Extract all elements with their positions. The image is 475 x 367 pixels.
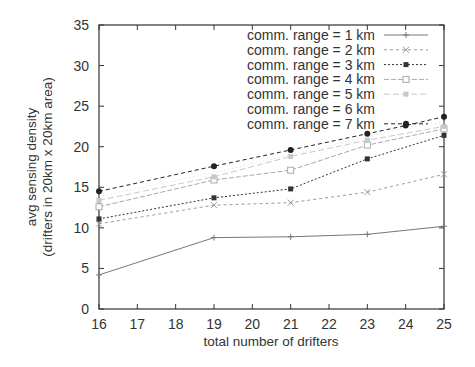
series-2km (96, 171, 447, 226)
x-tick-label: 18 (168, 316, 184, 332)
data-point-marker (97, 216, 102, 221)
data-point-marker (441, 114, 447, 120)
data-point-marker (211, 235, 217, 241)
x-tick-label: 16 (91, 316, 107, 332)
series-6km (99, 122, 444, 196)
y-tick-label: 10 (73, 220, 89, 236)
x-tick-label: 17 (130, 316, 146, 332)
legend: comm. range = 1 kmcomm. range = 2 kmcomm… (247, 27, 428, 132)
legend-entry: comm. range = 4 km (247, 71, 428, 87)
data-point-marker (212, 195, 217, 200)
data-point-marker (211, 163, 217, 169)
legend-label: comm. range = 1 km (247, 27, 375, 43)
series-3km (97, 133, 447, 222)
legend-label: comm. range = 2 km (247, 42, 375, 58)
data-point-marker (404, 92, 409, 97)
data-point-marker (288, 234, 294, 240)
x-tick-label: 23 (360, 316, 376, 332)
data-point-marker (288, 147, 294, 153)
y-tick-label: 5 (81, 260, 89, 276)
series-line (99, 226, 444, 275)
data-point-marker (364, 142, 370, 148)
legend-entry: comm. range = 6 km (247, 101, 375, 117)
x-tick-label: 25 (436, 316, 452, 332)
data-point-marker (365, 138, 370, 143)
data-point-marker (96, 188, 102, 194)
series-line (99, 135, 444, 219)
data-point-marker (288, 186, 293, 191)
data-point-marker (96, 272, 102, 278)
x-tick-label: 22 (321, 316, 337, 332)
series-line (99, 129, 444, 207)
legend-entry: comm. range = 5 km (247, 86, 428, 102)
series-line (99, 122, 444, 196)
line-chart: 05101520253035 16171819202122232425 comm… (0, 0, 475, 367)
x-tick-label: 24 (398, 316, 414, 332)
series-4km (96, 126, 447, 210)
y-tick-label: 25 (73, 98, 89, 114)
x-tick-label: 21 (283, 316, 299, 332)
series-layer (96, 114, 447, 278)
legend-entry: comm. range = 1 km (247, 27, 428, 43)
y-tick-label: 15 (73, 179, 89, 195)
data-point-marker (403, 32, 409, 38)
data-point-marker (364, 231, 370, 237)
legend-label: comm. range = 5 km (247, 86, 375, 102)
data-point-marker (97, 198, 102, 203)
series-1km (96, 223, 447, 278)
legend-label: comm. range = 3 km (247, 57, 375, 73)
y-tick-label: 35 (73, 17, 89, 33)
legend-entry: comm. range = 2 km (247, 42, 428, 58)
y-axis-subtitle: (drifters in 20km x 20km area) (40, 77, 55, 256)
legend-entry: comm. range = 3 km (247, 57, 428, 73)
data-point-marker (442, 124, 447, 129)
x-axis-title: total number of drifters (203, 334, 338, 349)
data-point-marker (404, 62, 409, 67)
data-point-marker (403, 121, 409, 127)
data-point-marker (212, 174, 217, 179)
series-line (99, 174, 444, 223)
legend-label: comm. range = 6 km (247, 101, 375, 117)
data-point-marker (96, 204, 102, 210)
series-line (99, 126, 444, 200)
data-point-marker (288, 200, 294, 206)
legend-label: comm. range = 7 km (247, 116, 375, 132)
series-5km (97, 124, 447, 203)
legend-label: comm. range = 4 km (247, 71, 375, 87)
legend-entry: comm. range = 7 km (247, 116, 428, 132)
data-point-marker (365, 156, 370, 161)
data-point-marker (403, 76, 409, 82)
data-point-marker (288, 167, 294, 173)
y-axis-title: avg sensing density (24, 107, 39, 226)
y-tick-label: 20 (73, 139, 89, 155)
x-tick-label: 20 (245, 316, 261, 332)
y-tick-label: 30 (73, 58, 89, 74)
data-point-marker (442, 133, 447, 138)
y-tick-label: 0 (81, 301, 89, 317)
x-tick-label: 19 (206, 316, 222, 332)
